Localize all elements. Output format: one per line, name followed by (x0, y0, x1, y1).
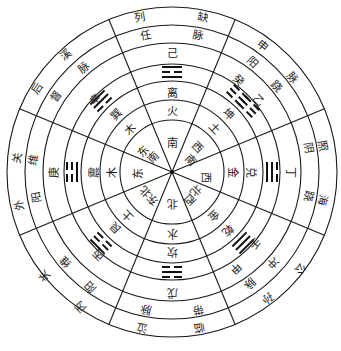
trigram-icon-震 (67, 162, 77, 182)
label-text: 土 (120, 208, 137, 225)
bagua-eight-vessels-diagram: 南西南西北西北东北东东南火土金金水土木木离坤兑乾坎艮震巽己乙癸丁壬甲戊丙庚辛任脉… (0, 0, 341, 351)
label-text: 阴 (301, 141, 316, 154)
label-text: 甲 (228, 260, 245, 277)
label-text: 外 (13, 198, 28, 211)
label-text: 临 (192, 320, 205, 336)
label-text: 脉 (139, 302, 152, 318)
label-text: 孙 (260, 290, 276, 307)
label-text: 坎 (167, 245, 178, 258)
label-text: 水 (167, 227, 178, 240)
divider-line-1 (172, 20, 235, 172)
label-text: 脉 (191, 28, 204, 44)
trigram-icon-兑 (267, 162, 277, 182)
label-text: 丙 (91, 247, 108, 264)
label-text: 金 (226, 167, 240, 178)
label-text: 督 (47, 87, 65, 104)
label-text: 火 (167, 105, 178, 118)
label-text: 己 (167, 47, 178, 60)
label-text: 脉 (283, 69, 301, 86)
divider-line-4 (172, 172, 235, 324)
label-text: 溪 (58, 46, 75, 63)
label-text: 海 (315, 193, 331, 206)
label-text: 带 (191, 302, 204, 317)
label-text: 冲 (265, 254, 283, 272)
label-text: 木 (106, 167, 119, 178)
label-text: 离 (167, 86, 178, 100)
label-text: 南 (167, 137, 178, 150)
label-text: 脉 (75, 59, 92, 77)
label-text: 西 (199, 172, 212, 183)
label-text: 列 (133, 10, 146, 26)
label-text: 艮 (108, 220, 125, 237)
label-text: 公 (291, 260, 308, 277)
label-text: 丁 (284, 167, 297, 178)
label-text: 维 (27, 153, 42, 166)
label-text: 关 (36, 268, 54, 286)
label-text: 跷 (268, 77, 286, 95)
label-text: 东 (132, 168, 145, 179)
label-text: 乙 (250, 92, 267, 109)
label-text: 兑 (244, 167, 258, 178)
label-text: 阳 (83, 279, 100, 296)
label-text: 戊 (167, 286, 178, 299)
trigram-icon-坎 (162, 267, 182, 277)
label-text: 关 (10, 151, 26, 164)
label-text: 阳 (30, 190, 45, 203)
label-text: 任 (139, 29, 152, 44)
label-text: 照 (315, 139, 330, 152)
label-text: 缺 (196, 10, 209, 26)
center-point (170, 170, 174, 174)
label-text: 泣 (135, 320, 148, 336)
label-text: 庚 (47, 167, 61, 178)
label-text: 脉 (242, 275, 260, 293)
label-text: 跷 (301, 189, 317, 202)
label-text: 木 (122, 122, 139, 139)
label-text: 后 (29, 80, 46, 96)
label-text: 阳 (244, 54, 261, 71)
label-text: 震 (88, 167, 101, 178)
label-text: 癸 (230, 71, 248, 89)
label-text: 北 (167, 197, 178, 210)
trigram-icon-离 (162, 67, 182, 77)
